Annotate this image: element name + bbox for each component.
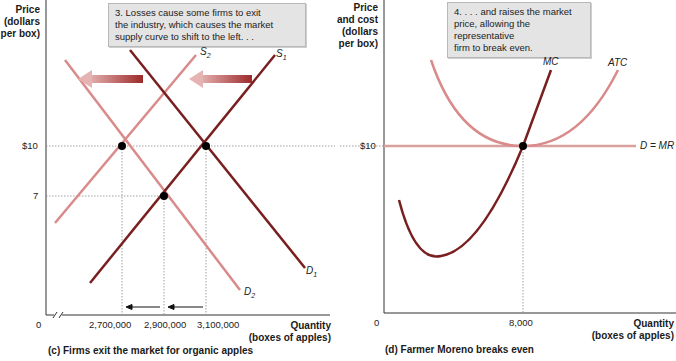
- shift-arrow-right-icon: [189, 70, 252, 88]
- atc-curve: [431, 60, 618, 146]
- y-axis-label-line: per box): [326, 38, 378, 50]
- y-axis-label-line: (dollars: [326, 26, 378, 38]
- y-tick-10: $10: [360, 140, 376, 151]
- x-tick-0: 0: [36, 319, 41, 330]
- callout-line: firm to break even.: [454, 42, 584, 54]
- x-tick-2900000: 2,900,000: [144, 319, 186, 330]
- y-axis-label-line: Price: [326, 2, 378, 14]
- label-atc: ATC: [608, 57, 627, 68]
- callout-line: price, allowing the representative: [454, 18, 584, 42]
- axis-break-icon: [53, 310, 63, 320]
- panel-caption: (d) Farmer Moreno breaks even: [385, 344, 534, 355]
- y-axis-label-line: per box): [0, 28, 40, 40]
- quantity-decrease-arrows: [126, 305, 203, 310]
- equilibrium-point-short-run: [160, 192, 168, 200]
- panel-firms-exit: Price (dollars per box) 3. Losses cause …: [0, 0, 340, 361]
- y-axis-label: Price and cost (dollars per box): [326, 2, 378, 50]
- x-axis-label: Quantity (boxes of apples): [576, 318, 674, 342]
- y-tick-7: 7: [33, 190, 38, 201]
- panel-c-plot: [0, 0, 340, 361]
- annotation-callout-3: 3. Losses cause some firms to exit the i…: [108, 3, 306, 47]
- equilibrium-point-new: [118, 142, 126, 150]
- callout-line: 4. . . . and raises the market: [454, 6, 584, 18]
- mc-curve: [399, 70, 551, 257]
- callout-line: 3. Losses cause some firms to exit: [115, 7, 299, 19]
- callout-line: the industry, which causes the market: [115, 19, 299, 31]
- panel-farmer-breaks-even: Price and cost (dollars per box) 4. . . …: [340, 0, 676, 361]
- x-tick-8000: 8,000: [509, 317, 533, 328]
- label-d2: D2: [244, 286, 255, 299]
- equilibrium-point-initial: [202, 142, 210, 150]
- y-axis-label-line: (dollars: [0, 16, 40, 28]
- x-axis-label-line: (boxes of apples): [576, 330, 674, 342]
- x-tick-2700000: 2,700,000: [89, 319, 131, 330]
- annotation-callout-4: 4. . . . and raises the market price, al…: [447, 2, 591, 58]
- y-axis-label-line: and cost: [326, 14, 378, 26]
- supply-curve-s1: [90, 55, 275, 283]
- label-d1: D1: [306, 265, 317, 278]
- label-s2: S2: [200, 46, 211, 59]
- y-axis-label: Price (dollars per box): [0, 4, 40, 40]
- x-axis-label-line: (boxes of apples): [236, 332, 331, 344]
- shift-arrow-left-icon: [78, 70, 143, 88]
- x-tick-3100000: 3,100,000: [197, 319, 239, 330]
- y-tick-10: $10: [22, 140, 38, 151]
- guide-lines: [340, 146, 523, 313]
- callout-line: supply curve to shift to the left. . .: [115, 31, 299, 43]
- demand-curve-d2: [65, 60, 240, 290]
- break-even-point: [519, 142, 527, 150]
- x-axis-label: Quantity (boxes of apples): [236, 320, 331, 344]
- x-tick-0: 0: [374, 317, 379, 328]
- x-axis-label-line: Quantity: [576, 318, 674, 330]
- label-s1: S1: [276, 48, 287, 61]
- y-axis-label-line: Price: [0, 4, 40, 16]
- guide-lines: [46, 146, 335, 315]
- label-d-mr: D = MR: [640, 140, 674, 151]
- x-axis-label-line: Quantity: [236, 320, 331, 332]
- panel-caption: (c) Firms exit the market for organic ap…: [48, 345, 253, 356]
- label-mc: MC: [543, 56, 559, 67]
